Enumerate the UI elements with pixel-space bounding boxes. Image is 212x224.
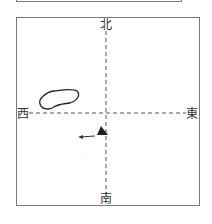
island-outline-icon	[40, 89, 79, 109]
faint-dot	[84, 153, 85, 154]
motion-arrow-head-icon	[78, 135, 83, 139]
west-label: 西	[17, 108, 29, 120]
south-label: 南	[100, 193, 112, 205]
compass-diagram	[0, 0, 212, 224]
north-label: 北	[100, 19, 112, 31]
east-label: 東	[186, 108, 198, 120]
